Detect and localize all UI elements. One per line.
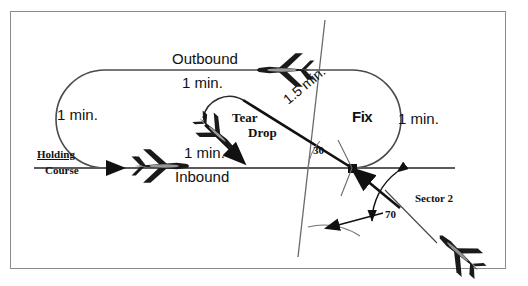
label-fix: Fix xyxy=(352,108,372,125)
label-angle-70: 70 xyxy=(385,208,396,220)
label-course: Course xyxy=(45,164,79,176)
label-outbound-time: 1 min. xyxy=(182,74,223,91)
entry-aircraft xyxy=(429,224,491,285)
label-drop: Drop xyxy=(248,125,277,141)
label-right-turn-time: 1 min. xyxy=(398,110,439,127)
label-inbound: Inbound xyxy=(175,168,229,185)
label-left-turn-time: 1 min. xyxy=(57,106,98,123)
label-angle-30: 30 xyxy=(313,144,324,156)
aircraft-layer xyxy=(0,0,528,286)
holding-pattern-diagram: Outbound 1 min. 1 min. 1 min. Fix Tear D… xyxy=(0,0,528,286)
label-tear: Tear xyxy=(232,110,258,126)
label-holding: Holding xyxy=(37,148,75,160)
label-inbound-time: 1 min. xyxy=(184,144,225,161)
label-outbound: Outbound xyxy=(172,50,238,67)
label-sector-2: Sector 2 xyxy=(415,192,453,204)
